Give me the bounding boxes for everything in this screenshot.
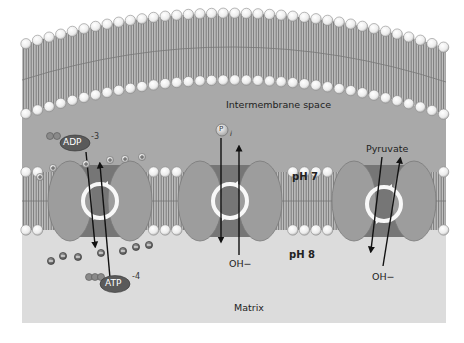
pi-label: P bbox=[219, 125, 223, 133]
ph-inner-label: pH 8 bbox=[289, 249, 315, 260]
diagram-canvas bbox=[0, 0, 464, 343]
pyruvate-label: Pyruvate bbox=[366, 143, 408, 154]
atp-label: ATP bbox=[105, 278, 121, 288]
oh-label-pi: OH− bbox=[229, 258, 252, 269]
matrix-label: Matrix bbox=[234, 302, 264, 313]
oh-label-pyruvate: OH− bbox=[372, 271, 395, 282]
adp-charge: -3 bbox=[91, 132, 99, 141]
adp-label: ADP bbox=[63, 137, 82, 147]
ph-outer-label: pH 7 bbox=[292, 171, 318, 182]
pi-subscript: i bbox=[230, 130, 232, 138]
intermembrane-space-label: Intermembrane space bbox=[226, 99, 331, 110]
atp-charge: -4 bbox=[132, 272, 140, 281]
